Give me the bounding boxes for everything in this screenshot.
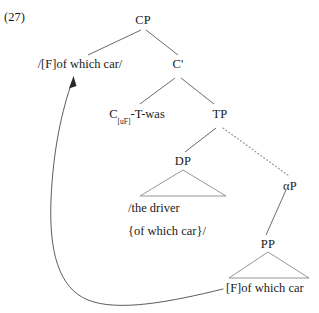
edge-tp-to-dp [185,128,216,152]
node-c-head-subscript: [uF] [118,117,131,126]
edge-cbar-to-chead [140,78,175,104]
tree-lines-canvas [0,0,319,313]
node-alpha-p: αP [283,180,297,193]
edge-cbar-to-tp [181,78,214,104]
dp-triangle [140,170,226,196]
node-dp: DP [175,155,191,168]
node-spec-cp: /[F]of which car/ [38,58,123,71]
pp-triangle [229,252,309,278]
node-c-head-suffix: -T-was [131,107,165,121]
node-pp-terminal: [F]of which car [226,282,304,295]
node-c-head: C[uF]-T-was [109,108,165,123]
node-cp: CP [135,14,151,27]
edge-cp-to-cbar [146,30,178,55]
movement-arrowhead [69,76,77,89]
syntax-tree-figure: (27) CP /[F]of which car/ C' C[uF]-T-was… [0,0,319,313]
node-dp-terminal-line2: {of which car}/ [128,225,206,238]
node-dp-terminal-line1: /the driver [128,202,180,215]
edge-tp-to-alphap [223,128,289,176]
edge-alphap-to-pp [266,190,286,235]
node-c-bar: C' [173,58,184,71]
node-pp: PP [261,238,275,251]
edge-cp-to-spec [88,30,141,55]
node-tp: TP [213,108,228,121]
